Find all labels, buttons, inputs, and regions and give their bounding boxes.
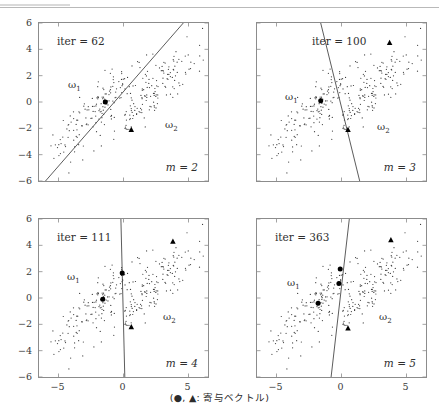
m-value-label: m = 5 xyxy=(384,357,416,369)
m-value-label: m = 2 xyxy=(166,161,198,173)
m-value-label: m = 4 xyxy=(166,357,198,369)
y-axis-tick-label: −2 xyxy=(12,318,32,329)
iteration-label: iter = 111 xyxy=(57,231,111,243)
class-label-omega1: ω1 xyxy=(67,271,80,285)
cluster-omega2-points xyxy=(300,28,422,161)
class-label-omega2: ω2 xyxy=(165,119,178,133)
y-axis-tick-label: 2 xyxy=(12,265,32,276)
y-axis-tick-label: 6 xyxy=(12,213,32,224)
class-label-omega2: ω2 xyxy=(377,121,390,135)
y-axis-tick-label: −4 xyxy=(12,148,32,159)
scatter-panel-4: iter = 363m = 5ω1ω2 xyxy=(256,218,427,378)
y-axis-tick-label: −6 xyxy=(12,371,32,382)
y-axis-tick-label: 6 xyxy=(12,17,32,28)
y-axis-tick-label: 4 xyxy=(12,43,32,54)
scatter-panel-3: iter = 111m = 4ω1ω2 xyxy=(38,218,209,378)
cluster-omega2-points xyxy=(300,224,422,357)
y-axis-tick-label: −2 xyxy=(12,122,32,133)
y-axis-tick-label: −6 xyxy=(12,175,32,186)
scatter-panel-2: iter = 100m = 3ω1ω2 xyxy=(256,22,427,182)
cluster-omega1-points xyxy=(268,249,371,369)
page-header-rule xyxy=(0,7,439,8)
cluster-omega2-points xyxy=(82,224,204,357)
support-vector-circles xyxy=(103,100,108,105)
class-label-omega1: ω1 xyxy=(285,91,298,105)
iteration-label: iter = 62 xyxy=(57,35,105,47)
iteration-label: iter = 100 xyxy=(312,35,366,47)
figure-caption: (●, ▲: 寄与ベクトル) xyxy=(0,390,439,404)
support-vector-triangles xyxy=(345,40,392,132)
y-axis-tick-label: 2 xyxy=(12,69,32,80)
cluster-omega1-points xyxy=(268,53,371,173)
cluster-omega1-points xyxy=(50,249,153,369)
cluster-omega2-points xyxy=(82,28,204,161)
class-label-omega1: ω1 xyxy=(68,79,81,93)
y-axis-tick-label: 0 xyxy=(12,292,32,303)
class-label-omega2: ω2 xyxy=(163,311,176,325)
class-label-omega1: ω1 xyxy=(287,277,300,291)
cluster-omega1-points xyxy=(50,53,153,173)
y-axis-tick-label: 0 xyxy=(12,96,32,107)
decision-boundary-line xyxy=(331,219,349,377)
scatter-panel-1: iter = 62m = 2ω1ω2 xyxy=(38,22,209,182)
y-axis-tick-label: 4 xyxy=(12,239,32,250)
support-vector-circles xyxy=(318,98,323,103)
page-header-rule-left xyxy=(0,4,70,6)
decision-boundary-line xyxy=(121,219,125,377)
figure-page: iter = 62m = 2ω1ω26420−2−4−6iter = 100m … xyxy=(0,0,439,417)
m-value-label: m = 3 xyxy=(384,161,416,173)
y-axis-tick-label: −4 xyxy=(12,344,32,355)
class-label-omega2: ω2 xyxy=(379,311,392,325)
iteration-label: iter = 363 xyxy=(275,231,329,243)
